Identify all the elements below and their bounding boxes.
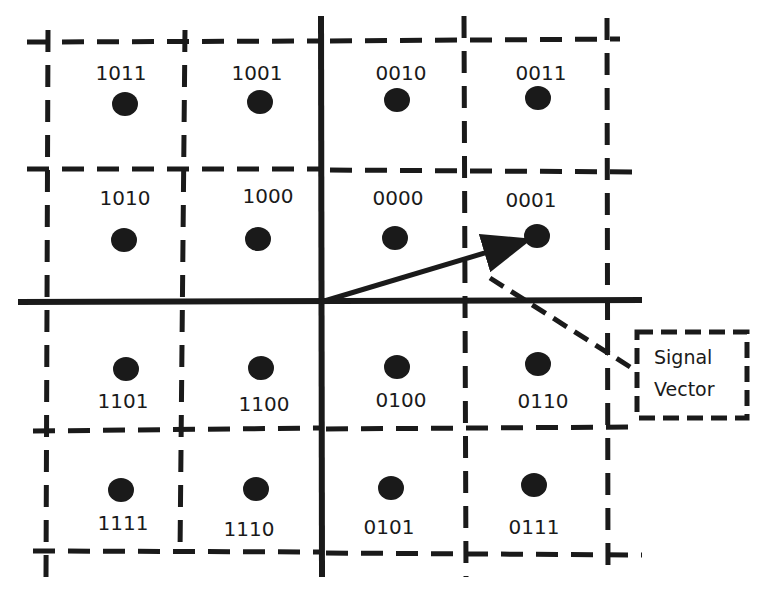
constellation-point-dot [521,473,547,497]
constellation-point-label: 1111 [98,511,149,535]
constellation-point-dot [525,352,551,376]
constellation-point-label: 1001 [232,61,283,85]
constellation-point-dot [111,228,137,252]
qam-constellation-diagram: Signal Vector 10111001001000111010100000… [0,0,765,593]
constellation-point-dot [112,92,138,116]
constellation-point-dot [382,226,408,250]
constellation-point-dot [243,477,269,501]
constellation-point-label: 0001 [506,188,557,212]
constellation-point-label: 1101 [98,389,149,413]
constellation-point-dot [384,355,410,379]
constellation-point-label: 0010 [376,61,427,85]
signal-vector-arrow [321,243,518,302]
constellation-point-label: 0011 [516,61,567,85]
callout-box [637,332,747,418]
constellation-point-label: 0111 [509,515,560,539]
constellation-point-label: 1010 [100,186,151,210]
constellation-point-label: 1110 [224,517,275,541]
constellation-point-label: 1011 [96,61,147,85]
constellation-point-label: 0100 [376,388,427,412]
constellation-point-dot [524,224,550,248]
constellation-point-dot [384,88,410,112]
constellation-point-label: 0000 [373,186,424,210]
constellation-point-dot [247,90,273,114]
callout-text-line1: Signal [654,346,712,368]
constellation-point-label: 1100 [239,392,290,416]
constellation-point-dot [248,356,274,380]
constellation-point-dot [108,478,134,502]
callout-leader-line [490,278,638,372]
constellation-point-label: 1000 [243,184,294,208]
constellation-point-label: 0110 [518,389,569,413]
constellation-point-dot [245,227,271,251]
constellation-point-dot [378,476,404,500]
constellation-point-label: 0101 [364,515,415,539]
constellation-point-dot [525,86,551,110]
callout-text-line2: Vector [654,378,715,400]
vertical-axis [321,16,322,577]
constellation-point-dot [113,357,139,381]
